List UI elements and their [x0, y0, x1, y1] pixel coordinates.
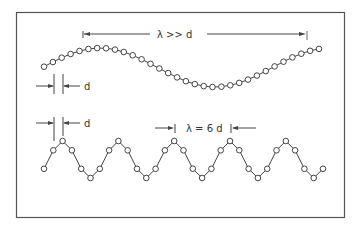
bead-circle: [192, 81, 198, 87]
bead-circle: [77, 48, 83, 54]
bead-circle: [88, 175, 94, 181]
wave-diagram: λ >> d d d λ = 6 d: [0, 0, 357, 227]
bead-circle: [218, 148, 224, 154]
bead-circle: [165, 70, 171, 76]
bottom-spacing-annotation: d: [36, 117, 90, 141]
bead-circle: [209, 166, 215, 172]
bead-circle: [236, 80, 242, 86]
bead-circle: [219, 84, 225, 90]
bead-circle: [237, 147, 243, 153]
bead-circle: [181, 148, 187, 154]
bead-circle: [227, 138, 233, 144]
bead-circle: [50, 59, 56, 65]
bead-circle: [311, 175, 317, 181]
bead-circle: [264, 166, 270, 172]
bead-circle: [153, 166, 159, 172]
bead-circle: [68, 51, 74, 57]
bead-circle: [103, 46, 109, 52]
bead-circle: [106, 148, 112, 154]
bead-circle: [292, 148, 298, 154]
top-wavelength-label: λ >> d: [157, 29, 192, 40]
bead-circle: [116, 138, 122, 144]
bead-circle: [41, 64, 47, 70]
bead-circle: [144, 175, 150, 181]
bead-circle: [94, 45, 100, 51]
bead-circle: [263, 68, 269, 74]
bead-circle: [199, 175, 205, 181]
bottom-wave-chain: [41, 138, 326, 181]
bead-circle: [148, 61, 154, 67]
bead-circle: [59, 55, 65, 61]
bead-circle: [302, 166, 308, 172]
top-spacing-annotation: d: [36, 74, 90, 94]
bead-circle: [130, 53, 136, 59]
bead-circle: [274, 148, 280, 154]
bead-circle: [255, 175, 261, 181]
bead-circle: [254, 73, 260, 79]
bead-circle: [283, 138, 289, 144]
bead-circle: [121, 49, 127, 55]
bead-circle: [41, 166, 47, 172]
bead-circle: [210, 84, 216, 90]
bead-circle: [183, 78, 189, 84]
bead-circle: [112, 47, 118, 53]
bead-circle: [228, 83, 234, 89]
bead-circle: [281, 59, 287, 65]
bead-circle: [157, 66, 163, 72]
bead-circle: [69, 148, 75, 154]
bead-circle: [201, 83, 207, 89]
bead-circle: [245, 77, 251, 83]
bead-circle: [290, 55, 296, 61]
bead-circle: [60, 138, 66, 144]
bead-circle: [125, 148, 131, 154]
bead-circle: [97, 166, 103, 172]
bead-circle: [316, 46, 322, 52]
bead-circle: [307, 48, 313, 54]
bead-circle: [190, 166, 196, 172]
bead-circle: [134, 166, 140, 172]
figure-frame: [17, 13, 345, 218]
bead-circle: [246, 166, 252, 172]
top-spacing-label: d: [84, 81, 90, 92]
bottom-spacing-label: d: [84, 118, 90, 129]
bead-circle: [174, 75, 180, 81]
bottom-wavelength-label: λ = 6 d: [186, 123, 223, 134]
bead-circle: [320, 166, 326, 172]
bead-circle: [86, 46, 92, 52]
bead-circle: [171, 138, 177, 144]
bottom-wavelength-annotation: λ = 6 d: [155, 123, 256, 134]
bead-circle: [162, 148, 168, 154]
bead-circle: [78, 166, 84, 172]
bead-circle: [272, 64, 278, 70]
bead-circle: [139, 57, 145, 63]
bead-circle: [51, 148, 57, 154]
top-wavelength-annotation: λ >> d: [83, 29, 307, 40]
bead-circle: [299, 51, 305, 57]
